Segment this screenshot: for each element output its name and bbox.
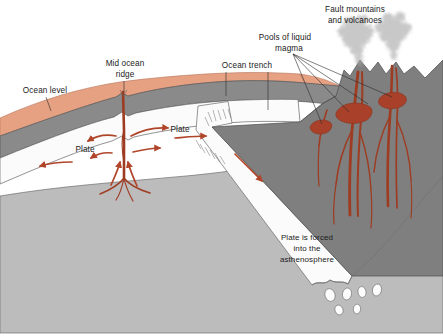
- label-pools-line1: Pools of liquid: [259, 33, 312, 42]
- label-plate-left: Plate: [75, 145, 95, 154]
- label-plate-right: Plate: [170, 125, 190, 134]
- diagram-canvas: Ocean level Mid ocean ridge Ocean trench…: [0, 0, 443, 336]
- label-mid-ocean-ridge-line1: Mid ocean: [106, 59, 145, 68]
- label-mid-ocean-ridge-line2: ridge: [116, 70, 135, 79]
- label-subduction-line1: Plate is forced: [281, 233, 333, 242]
- label-subduction-line3: asthenosphere: [280, 255, 335, 264]
- label-fault-line2: and volcanoes: [328, 16, 382, 25]
- label-fault-line1: Fault mountains: [325, 5, 385, 14]
- label-subduction-line2: into the: [293, 244, 320, 253]
- plate-tectonics-diagram: Ocean level Mid ocean ridge Ocean trench…: [0, 0, 443, 336]
- label-ocean-level: Ocean level: [23, 86, 67, 95]
- label-ocean-trench: Ocean trench: [222, 61, 273, 70]
- label-pools-line2: magma: [275, 44, 303, 53]
